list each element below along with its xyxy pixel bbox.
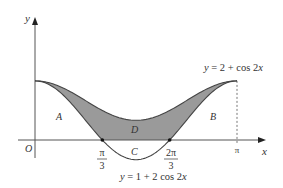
region-label-a: A <box>55 111 63 122</box>
y-axis-label: y <box>24 12 30 24</box>
tick-2pi-3-den: 3 <box>169 160 174 171</box>
origin-label: O <box>25 143 32 154</box>
upper-curve-equation: y = 2 + cos 2x <box>203 62 263 73</box>
tick-2pi-3-num: 2π <box>166 147 176 158</box>
y-axis-arrow-icon <box>32 17 38 25</box>
function-graph: y x O π 3 2π 3 π y = 2 + cos 2x y = 1 + … <box>0 0 283 188</box>
x-axis-label: x <box>261 145 267 157</box>
tick-pi-3-den: 3 <box>100 160 105 171</box>
lower-curve-equation: y = 1 + 2 cos 2x <box>119 171 187 182</box>
eq-upper-x: x <box>257 62 263 73</box>
point-pi-over-3 <box>101 138 105 142</box>
eq-upper-rhs: = 2 + cos 2 <box>209 62 258 73</box>
region-label-c: C <box>131 146 138 157</box>
x-axis-arrow-icon <box>258 137 266 143</box>
point-2pi-over-3 <box>168 138 172 142</box>
eq-lower-x: x <box>181 171 187 182</box>
tick-pi: π <box>235 145 240 155</box>
tick-pi-3-num: π <box>99 147 104 158</box>
curve-upper <box>35 81 237 120</box>
region-label-d: D <box>130 124 139 135</box>
eq-lower-rhs: = 1 + 2 cos 2 <box>125 171 182 182</box>
region-label-b: B <box>210 111 216 122</box>
